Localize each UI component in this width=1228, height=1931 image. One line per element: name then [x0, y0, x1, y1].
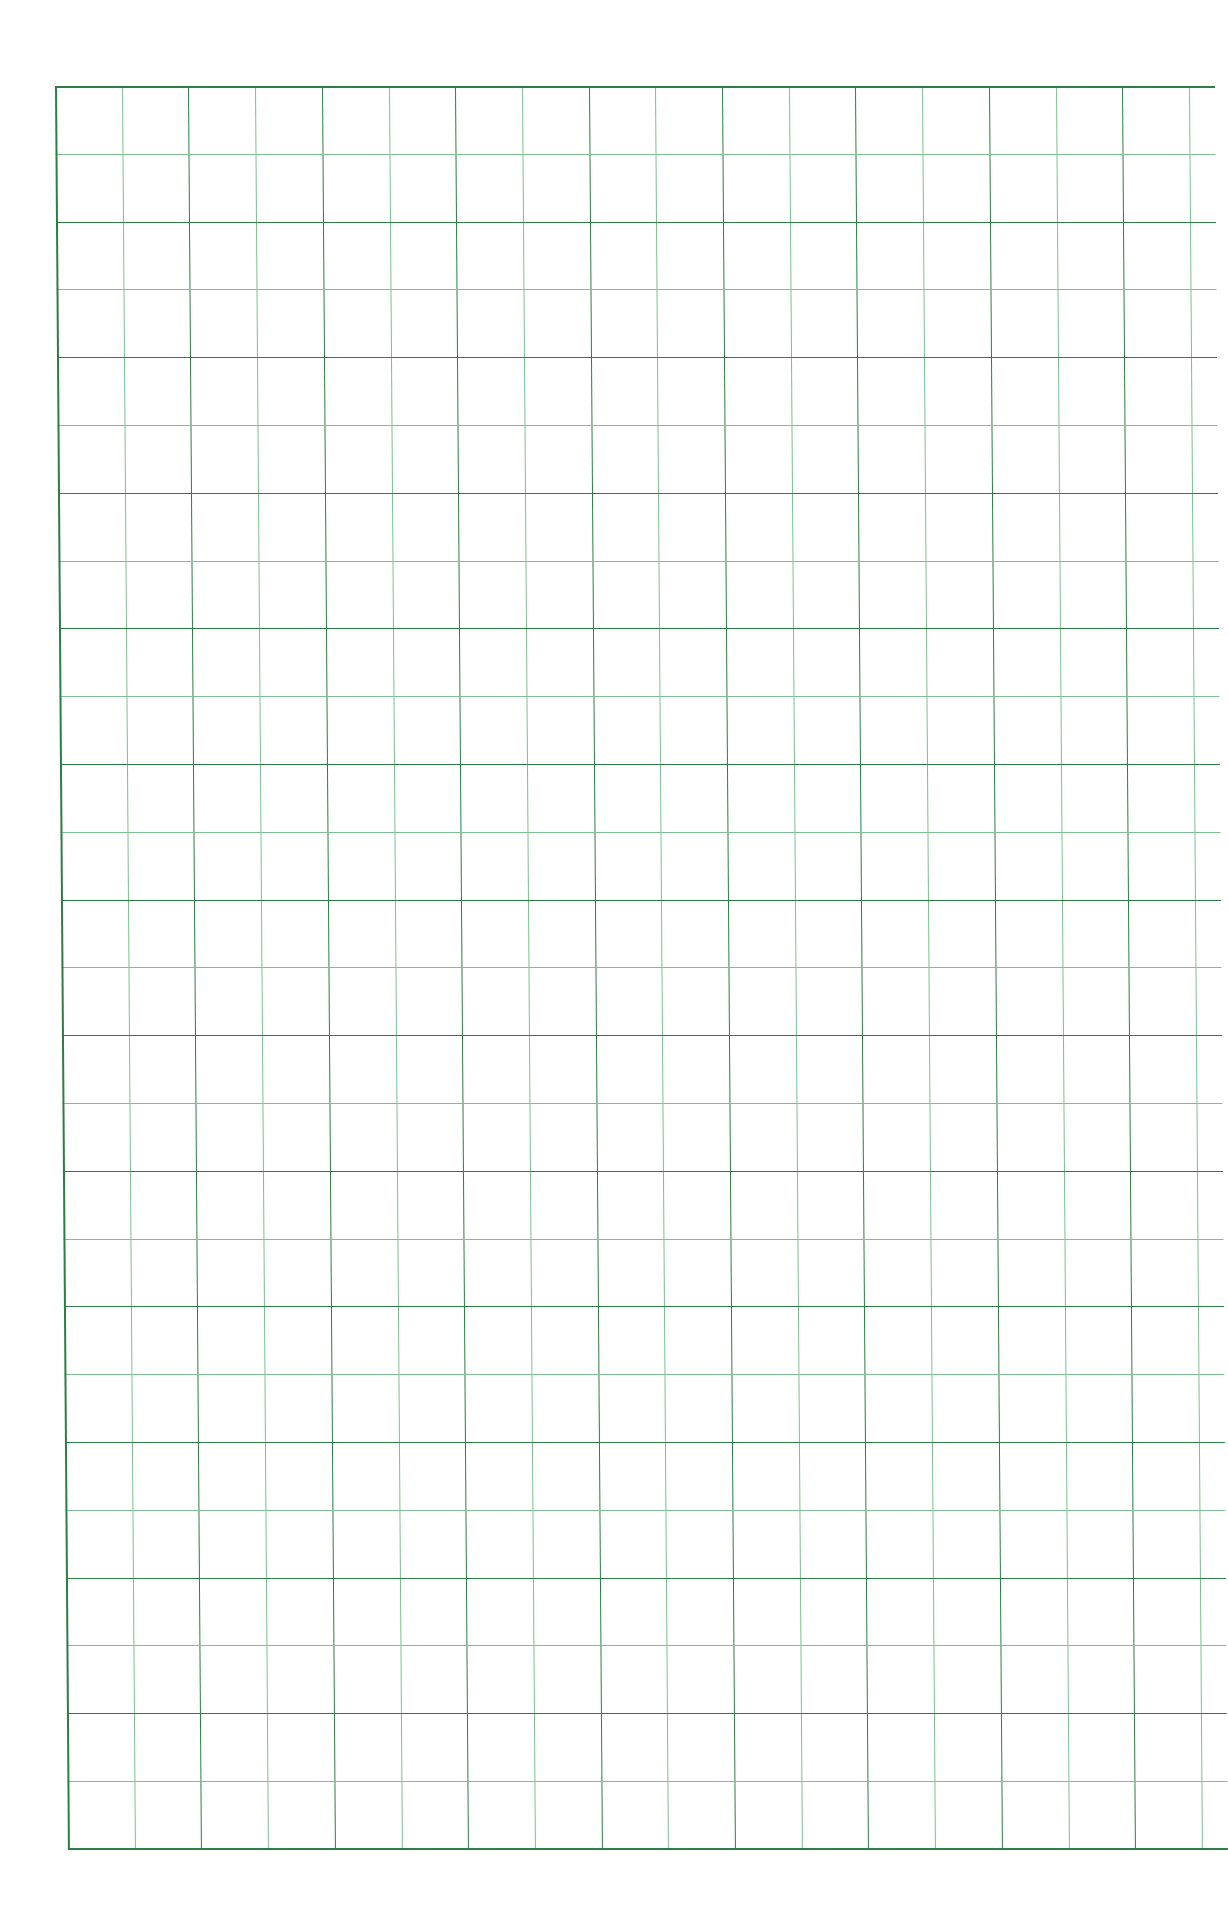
grid-horizontal-line: [66, 1578, 1226, 1579]
grid-horizontal-line: [55, 154, 1215, 155]
grid-horizontal-line: [57, 425, 1217, 426]
graph-paper-sheet: [55, 86, 1228, 1850]
grid-border-bottom: [68, 1848, 1228, 1850]
grid-horizontal-line: [67, 1781, 1227, 1782]
grid-horizontal-line: [59, 696, 1219, 697]
grid-horizontal-line: [67, 1713, 1227, 1714]
grid-horizontal-line: [56, 289, 1216, 290]
grid-horizontal-line: [65, 1510, 1225, 1511]
grid-horizontal-line: [58, 493, 1218, 494]
grid-horizontal-line: [64, 1306, 1224, 1307]
grid-horizontal-line: [57, 357, 1217, 358]
grid-horizontal-line: [61, 900, 1221, 901]
grid-horizontal-line: [63, 1171, 1223, 1172]
grid-horizontal-line: [64, 1374, 1224, 1375]
grid-horizontal-line: [59, 628, 1219, 629]
grid-horizontal-line: [66, 1645, 1226, 1646]
grid-horizontal-line: [65, 1442, 1225, 1443]
grid-horizontal-line: [58, 561, 1218, 562]
grid-horizontal-line: [56, 222, 1216, 223]
grid-horizontal-line: [62, 1035, 1222, 1036]
grid-horizontal-line: [60, 832, 1220, 833]
grid-horizontal-line: [61, 967, 1221, 968]
grid-lines: [55, 86, 1228, 1850]
grid-horizontal-line: [63, 1239, 1223, 1240]
grid-horizontal-line: [62, 1103, 1222, 1104]
grid-horizontal-line: [60, 764, 1220, 765]
grid-border-top: [55, 86, 1215, 88]
